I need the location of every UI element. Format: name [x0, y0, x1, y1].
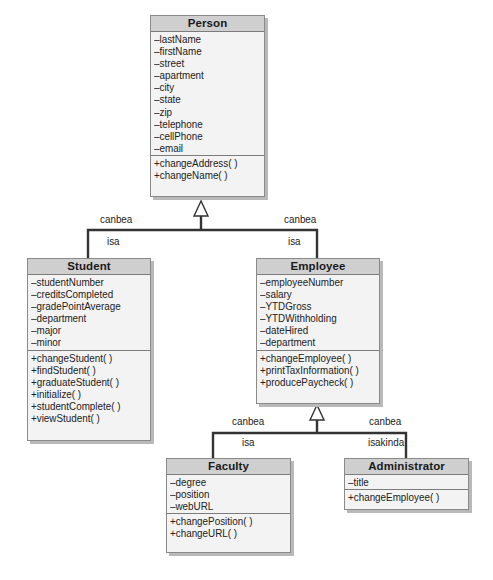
attribute: –creditsCompleted	[31, 288, 142, 300]
class-administrator-title: Administrator	[345, 459, 468, 475]
method: +changeURL( )	[170, 527, 282, 539]
class-faculty-title: Faculty	[167, 459, 290, 475]
attribute: –city	[154, 81, 256, 93]
class-person[interactable]: Person –lastName –firstName –street –apa…	[150, 15, 265, 197]
class-person-methods: +changeAddress( ) +changeName( )	[151, 155, 264, 182]
student-isa-label: isa	[107, 235, 120, 247]
method: +graduateStudent( )	[31, 376, 142, 388]
attribute: –telephone	[154, 118, 256, 130]
class-employee-methods: +changeEmployee( ) +printTaxInformation(…	[257, 350, 379, 389]
class-employee-attributes: –employeeNumber –salary –YTDGross –YTDWi…	[257, 275, 379, 350]
class-administrator-attributes: –title	[345, 475, 468, 489]
student-canbea-label: canbea	[100, 213, 132, 225]
method: +changeEmployee( )	[348, 491, 460, 503]
attribute: –zip	[154, 106, 256, 118]
class-employee-title: Employee	[257, 259, 379, 275]
attribute: –firstName	[154, 45, 256, 57]
attribute: –position	[170, 488, 282, 500]
attribute: –YTDGross	[260, 300, 371, 312]
attribute: –state	[154, 93, 256, 105]
class-administrator[interactable]: Administrator –title +changeEmployee( )	[344, 458, 469, 510]
method: +changeName( )	[154, 169, 256, 181]
employee-canbea-label: canbea	[284, 213, 316, 225]
attribute: –studentNumber	[31, 276, 142, 288]
class-faculty-methods: +changePosition( ) +changeURL( )	[167, 513, 290, 540]
class-employee[interactable]: Employee –employeeNumber –salary –YTDGro…	[256, 258, 380, 404]
method: +studentComplete( )	[31, 400, 142, 412]
method: +changePosition( )	[170, 515, 282, 527]
class-person-title: Person	[151, 16, 264, 32]
class-student[interactable]: Student –studentNumber –creditsCompleted…	[27, 258, 151, 441]
attribute: –salary	[260, 288, 371, 300]
administrator-canbea-label: canbea	[369, 415, 401, 427]
class-faculty-attributes: –degree –position –webURL	[167, 475, 290, 513]
attribute: –department	[31, 312, 142, 324]
class-student-attributes: –studentNumber –creditsCompleted –gradeP…	[28, 275, 150, 350]
method: +changeEmployee( )	[260, 352, 371, 364]
attribute: –department	[260, 336, 371, 348]
attribute: –apartment	[154, 69, 256, 81]
method: +findStudent( )	[31, 364, 142, 376]
attribute: –lastName	[154, 33, 256, 45]
class-student-title: Student	[28, 259, 150, 275]
person-inheritance-triangle-icon	[194, 201, 208, 216]
faculty-isa-label: isa	[242, 436, 255, 448]
method: +changeAddress( )	[154, 157, 256, 169]
administrator-isakinda-label: isakinda	[368, 436, 404, 448]
method: +printTaxInformation( )	[260, 364, 371, 376]
employee-inheritance-triangle-icon	[310, 405, 324, 420]
faculty-canbea-label: canbea	[232, 415, 264, 427]
method: +changeStudent( )	[31, 352, 142, 364]
attribute: –YTDWithholding	[260, 312, 371, 324]
attribute: –title	[348, 476, 460, 488]
attribute: –employeeNumber	[260, 276, 371, 288]
attribute: –major	[31, 324, 142, 336]
method: +viewStudent( )	[31, 412, 142, 424]
attribute: –street	[154, 57, 256, 69]
employee-isa-label: isa	[288, 235, 301, 247]
class-student-methods: +changeStudent( ) +findStudent( ) +gradu…	[28, 350, 150, 426]
class-faculty[interactable]: Faculty –degree –position –webURL +chang…	[166, 458, 291, 553]
attribute: –email	[154, 142, 256, 154]
attribute: –dateHired	[260, 324, 371, 336]
attribute: –webURL	[170, 500, 282, 512]
attribute: –cellPhone	[154, 130, 256, 142]
method: +producePaycheck( )	[260, 376, 371, 388]
class-person-attributes: –lastName –firstName –street –apartment …	[151, 32, 264, 155]
attribute: –gradePointAverage	[31, 300, 142, 312]
attribute: –minor	[31, 336, 142, 348]
method: +initialize( )	[31, 388, 142, 400]
class-administrator-methods: +changeEmployee( )	[345, 489, 468, 504]
attribute: –degree	[170, 476, 282, 488]
